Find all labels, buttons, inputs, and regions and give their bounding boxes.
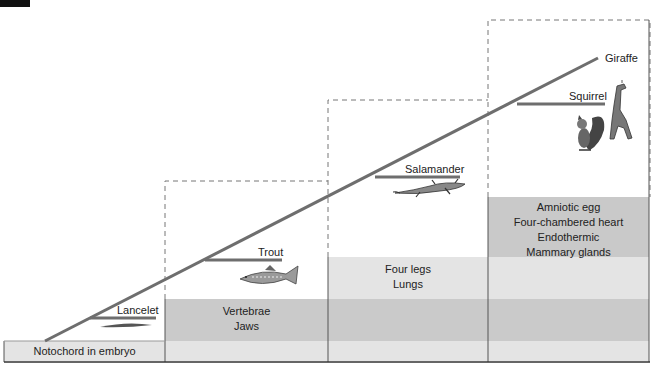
taxon-label-lancelet: Lancelet — [117, 304, 159, 316]
trout-icon — [240, 265, 298, 284]
character-label-notochord: Notochord in embryo — [4, 344, 165, 359]
lancelet-icon — [100, 323, 152, 327]
taxon-label-trout: Trout — [258, 246, 283, 258]
cladogram-diagram: Lancelet Trout Salamander Squirrel Giraf… — [0, 0, 654, 370]
squirrel-icon — [577, 115, 604, 150]
giraffe-icon — [610, 80, 632, 139]
character-label-amniotic-mammal: Amniotic egg Four-chambered heart Endoth… — [488, 200, 649, 260]
salamander-icon — [393, 179, 465, 197]
character-label-four-legs-lungs: Four legs Lungs — [328, 262, 488, 292]
dashed-outline-step-4 — [488, 20, 650, 197]
taxon-label-salamander: Salamander — [405, 163, 464, 175]
taxon-label-squirrel: Squirrel — [569, 90, 607, 102]
character-label-vertebrae-jaws: Vertebrae Jaws — [165, 304, 328, 334]
taxon-label-giraffe: Giraffe — [605, 52, 638, 64]
